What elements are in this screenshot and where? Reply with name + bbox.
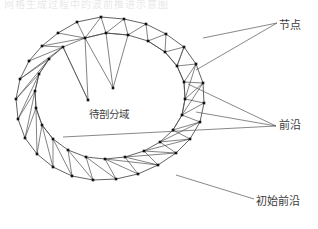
inner-ring-edges (35, 33, 185, 159)
leader-front-c (63, 126, 276, 137)
outer-ring-edges (16, 17, 204, 180)
mesh-nodes (15, 16, 206, 182)
label-front: 前沿 (279, 120, 301, 131)
label-domain: 待剖分域 (89, 109, 129, 120)
label-node: 节点 (279, 20, 301, 31)
figure-root: 网格生成过程中的波前推进示意图 (0, 0, 318, 229)
leader-front-b (196, 112, 276, 126)
leader-node-lower (196, 23, 277, 70)
leader-front-a (188, 84, 276, 126)
label-initial-front: 初始前沿 (256, 196, 300, 207)
leader-node-upper (203, 23, 277, 38)
leader-initial-front (176, 175, 254, 199)
